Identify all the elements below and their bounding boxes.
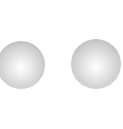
right-sphere xyxy=(71,39,121,89)
left-sphere xyxy=(0,41,45,89)
